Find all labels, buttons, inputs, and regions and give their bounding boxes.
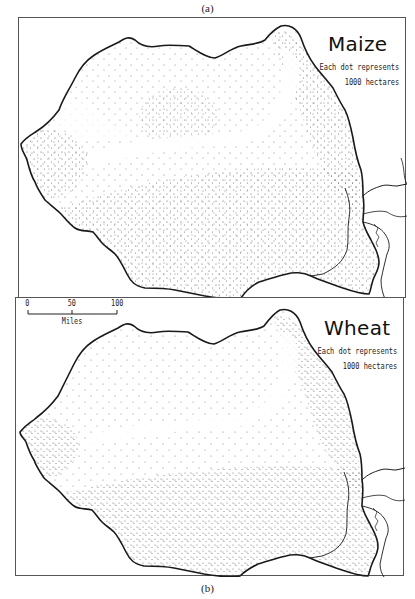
map-panel-wheat: 0 50 100 Miles Wheat Each dot represents… <box>15 297 404 576</box>
scale-tick-100: 100 <box>111 299 123 308</box>
map-title-maize: Maize <box>328 32 387 56</box>
legend-maize: Each dot represents 1000 hectares <box>319 60 399 90</box>
legend-line1: Each dot represents <box>317 344 397 359</box>
caption-b: (b) <box>0 582 415 594</box>
legend-line2: 1000 hectares <box>319 75 399 90</box>
maize-border-line <box>363 184 407 196</box>
scale-labels: 0 50 100 Miles <box>16 298 146 334</box>
legend-line2: 1000 hectares <box>317 359 397 374</box>
scale-tick-0: 0 <box>25 299 29 308</box>
legend-line1: Each dot represents <box>319 60 399 75</box>
map-title-wheat: Wheat <box>324 316 390 340</box>
caption-a: (a) <box>0 2 415 14</box>
scale-unit: Miles <box>62 317 82 326</box>
scale-tick-50: 50 <box>68 299 76 308</box>
legend-wheat: Each dot represents 1000 hectares <box>317 344 397 374</box>
wheat-border-line <box>362 468 405 480</box>
map-panel-maize: Maize Each dot represents 1000 hectares <box>18 17 406 298</box>
